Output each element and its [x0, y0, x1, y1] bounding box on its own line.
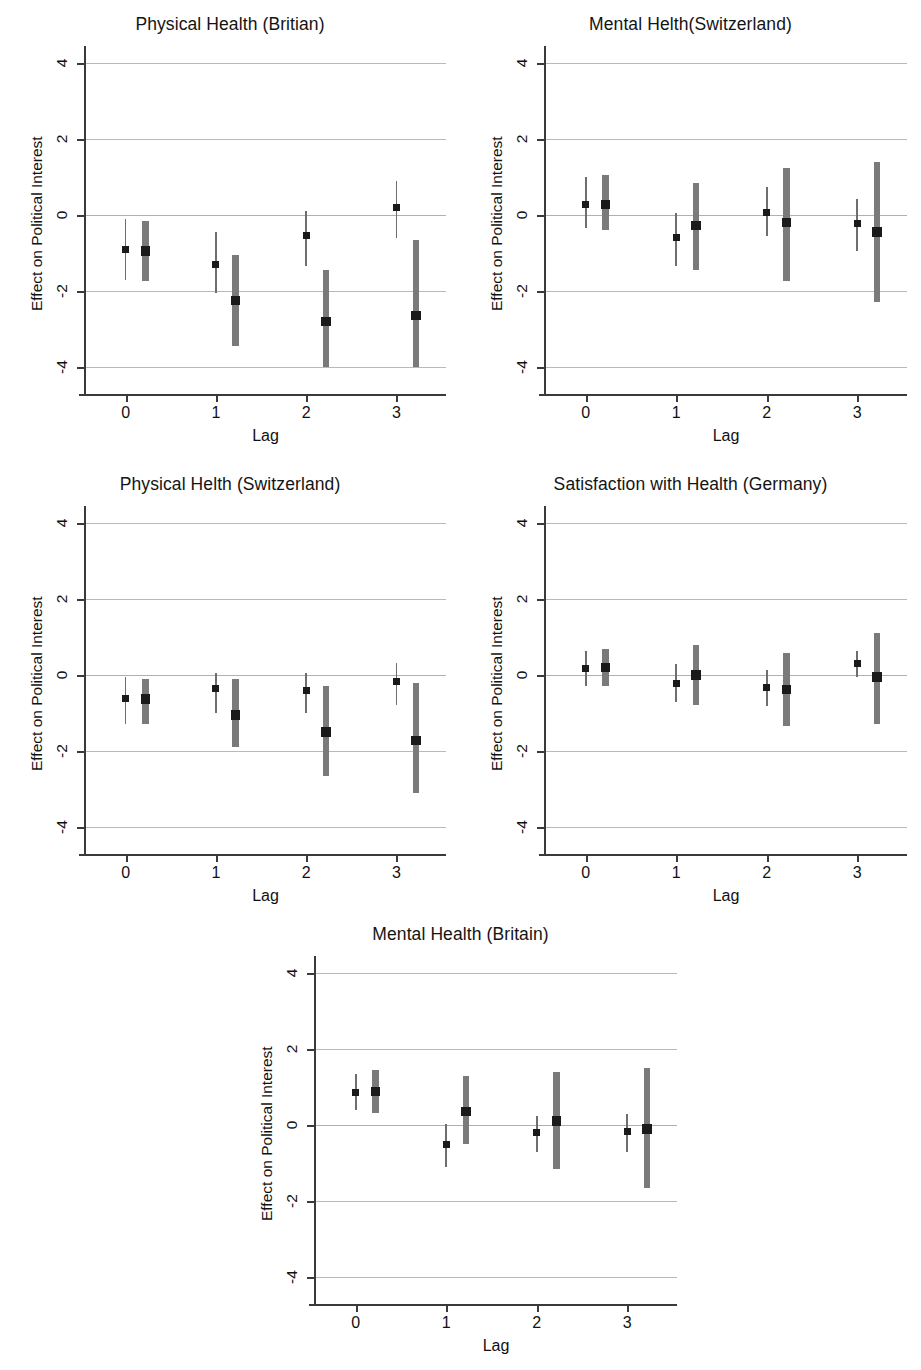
x-tick-label: 2 — [517, 1314, 557, 1332]
y-tick-mark — [537, 139, 544, 141]
point-marker — [443, 1141, 450, 1148]
gridline-y--2 — [85, 751, 446, 752]
x-tick-label: 1 — [656, 864, 696, 882]
y-axis-label: Effect on Political Interest — [488, 596, 506, 771]
x-tick-label: 2 — [747, 864, 787, 882]
plot-area — [85, 508, 446, 842]
panel-title: Physical Helth (Switzerland) — [0, 474, 460, 495]
point-marker — [691, 670, 701, 680]
point-marker — [461, 1107, 471, 1117]
point-marker — [411, 736, 421, 746]
y-tick-mark — [537, 523, 544, 525]
x-tick-mark — [676, 855, 678, 862]
y-tick-mark — [77, 599, 84, 601]
y-tick-label: -4 — [513, 354, 531, 380]
y-tick-mark — [537, 827, 544, 829]
figure-container: Physical Health (Britian)420-2-40123Effe… — [0, 0, 921, 1370]
ci-interval-thick — [413, 240, 420, 367]
y-tick-mark — [537, 291, 544, 293]
plot-area — [545, 508, 907, 842]
plot-area — [315, 958, 677, 1292]
panel-title: Satisfaction with Health (Germany) — [460, 474, 921, 495]
gridline-y-0 — [85, 675, 446, 676]
point-marker — [601, 663, 611, 673]
point-marker — [141, 246, 151, 256]
x-axis-label: Lag — [85, 887, 446, 905]
point-marker — [782, 685, 792, 695]
gridline-y--2 — [545, 291, 907, 292]
point-marker — [231, 296, 241, 306]
y-tick-mark — [537, 63, 544, 65]
x-tick-mark — [126, 855, 128, 862]
point-marker — [352, 1089, 359, 1096]
gridline-y-0 — [315, 1125, 677, 1126]
gridline-y-0 — [545, 675, 907, 676]
x-tick-mark — [356, 1305, 358, 1312]
y-tick-mark — [307, 1201, 314, 1203]
point-marker — [122, 246, 129, 253]
point-marker — [231, 710, 241, 720]
x-tick-label: 1 — [656, 404, 696, 422]
x-axis-label: Lag — [545, 887, 907, 905]
ci-interval-thin — [215, 673, 217, 713]
y-tick-label: 0 — [283, 1112, 301, 1138]
y-tick-mark — [77, 751, 84, 753]
panel-title: Mental Health (Britain) — [230, 924, 691, 945]
x-tick-mark — [586, 395, 588, 402]
y-tick-label: 2 — [283, 1036, 301, 1062]
point-marker — [393, 204, 400, 211]
y-tick-mark — [537, 599, 544, 601]
gridline-y-0 — [545, 215, 907, 216]
point-marker — [872, 672, 882, 682]
x-tick-mark — [767, 395, 769, 402]
x-axis-label: Lag — [85, 427, 446, 445]
y-tick-label: 0 — [513, 662, 531, 688]
y-tick-label: 4 — [53, 510, 71, 536]
x-tick-label: 1 — [426, 1314, 466, 1332]
y-axis-line — [544, 46, 546, 394]
gridline-y-2 — [85, 139, 446, 140]
point-marker — [582, 201, 589, 208]
y-axis-line — [544, 506, 546, 854]
x-tick-label: 0 — [106, 864, 146, 882]
y-tick-mark — [77, 827, 84, 829]
point-marker — [303, 687, 310, 694]
gridline-y--4 — [545, 367, 907, 368]
gridline-y-4 — [85, 63, 446, 64]
point-marker — [763, 209, 770, 216]
point-marker — [691, 221, 701, 231]
y-tick-label: -4 — [513, 814, 531, 840]
gridline-y--4 — [85, 827, 446, 828]
point-marker — [624, 1128, 631, 1135]
x-tick-label: 0 — [106, 404, 146, 422]
y-axis-label: Effect on Political Interest — [28, 596, 46, 771]
x-axis-label: Lag — [545, 427, 907, 445]
point-marker — [321, 727, 331, 737]
gridline-y-2 — [315, 1049, 677, 1050]
panel-title: Physical Health (Britian) — [0, 14, 460, 35]
x-tick-mark — [767, 855, 769, 862]
y-tick-label: -4 — [53, 354, 71, 380]
point-marker — [371, 1087, 381, 1097]
gridline-y--4 — [315, 1277, 677, 1278]
y-axis-label: Effect on Political Interest — [28, 136, 46, 311]
x-tick-mark — [306, 855, 308, 862]
plot-area — [545, 48, 907, 382]
gridline-y-2 — [545, 139, 907, 140]
panel-title: Mental Helth(Switzerland) — [460, 14, 921, 35]
y-tick-mark — [307, 1277, 314, 1279]
plot-area — [85, 48, 446, 382]
panel-3: Satisfaction with Health (Germany)420-2-… — [460, 460, 921, 920]
y-axis-line — [84, 506, 86, 854]
y-tick-mark — [307, 1125, 314, 1127]
gridline-y-0 — [85, 215, 446, 216]
gridline-y--2 — [85, 291, 446, 292]
x-axis-line — [539, 854, 907, 856]
gridline-y-2 — [545, 599, 907, 600]
x-tick-mark — [446, 1305, 448, 1312]
gridline-y--2 — [545, 751, 907, 752]
y-tick-label: -2 — [513, 278, 531, 304]
x-tick-mark — [396, 395, 398, 402]
panel-1: Mental Helth(Switzerland)420-2-40123Effe… — [460, 0, 921, 460]
x-tick-label: 2 — [286, 404, 326, 422]
